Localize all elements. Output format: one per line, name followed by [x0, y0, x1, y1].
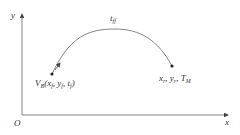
trajectory-curve — [52, 29, 172, 74]
curve-label: tff — [110, 14, 116, 24]
origin-label: O — [14, 119, 21, 128]
y-axis-label: y — [11, 11, 15, 20]
x-axis-label: x — [225, 118, 229, 127]
start-point — [50, 72, 53, 75]
trajectory-diagram — [0, 0, 240, 135]
end-point — [170, 64, 173, 67]
end-point-label: xr, yr, TM — [159, 74, 191, 84]
start-point-label: VB(xf, yf, tf) — [35, 79, 75, 89]
